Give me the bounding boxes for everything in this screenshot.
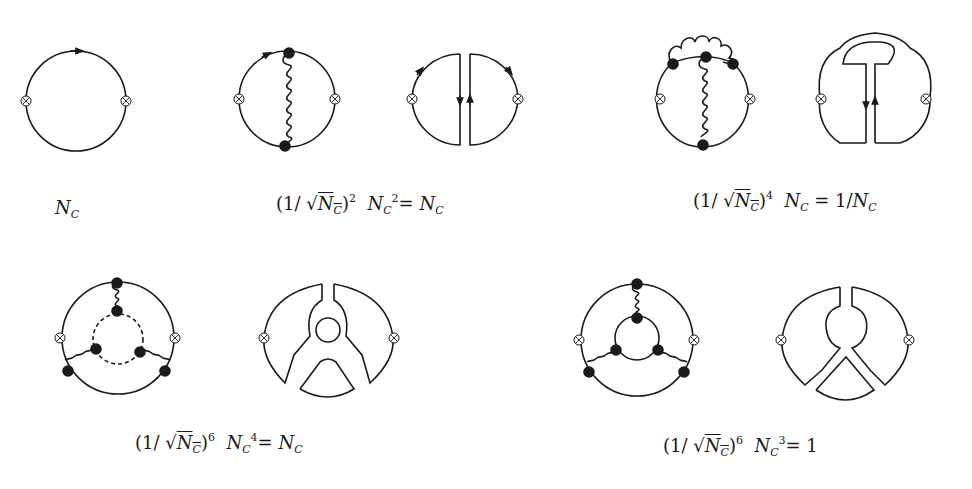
power: 6	[208, 431, 215, 444]
power: 2	[349, 192, 356, 205]
close-paren: )	[342, 193, 349, 214]
close-paren: )	[759, 190, 766, 211]
nc-symbol: N	[754, 435, 770, 456]
nc-subscript: C	[333, 204, 341, 217]
result: N	[419, 193, 435, 214]
nc-subscript: C	[800, 201, 808, 214]
nc-subscript: C	[71, 208, 79, 221]
nc-subscript: C	[750, 201, 758, 214]
prefix: (1/ √	[693, 190, 735, 211]
diagram-three-gluon-gluon-loop	[55, 278, 180, 394]
nc-symbol: N	[318, 193, 334, 214]
close-paren: )	[729, 435, 736, 456]
close-paren: )	[201, 432, 208, 453]
label-diagram-5: (1/ √NC)6 NC3= 1	[663, 434, 818, 459]
nc-subscript: C	[720, 446, 728, 459]
diagram-one-gluon	[234, 48, 340, 151]
power: 6	[736, 434, 743, 447]
power: 4	[766, 189, 773, 202]
diagram-canvas	[0, 0, 972, 489]
nc-symbol: N	[705, 435, 721, 456]
label-diagram-4: (1/ √NC)6 NC4= NC	[135, 431, 303, 456]
diagram-one-gluon-double-line	[407, 54, 523, 145]
equals: =	[258, 432, 279, 453]
nc-power: 3	[779, 434, 786, 447]
diagram-three-gluon-quark-loop-double-line	[776, 287, 914, 400]
nc-symbol: N	[226, 432, 242, 453]
nc-symbol: N	[55, 197, 71, 218]
nc-power: 2	[392, 192, 399, 205]
label-diagram-3: (1/ √NC)4 NC = 1/NC	[693, 189, 877, 214]
result-subscript: C	[868, 201, 876, 214]
diagram-quark-loop	[21, 51, 131, 151]
nc-subscript: C	[192, 443, 200, 456]
prefix: (1/ √	[135, 432, 177, 453]
nc-symbol: N	[784, 190, 800, 211]
diagram-two-gluon-double-line	[816, 33, 931, 143]
result-subscript: C	[435, 204, 443, 217]
prefix: (1/ √	[276, 193, 318, 214]
result: N	[278, 432, 294, 453]
result: N	[853, 190, 869, 211]
diagram-three-gluon-gluon-loop-double-line	[259, 284, 399, 397]
equals: = 1	[786, 435, 818, 456]
label-diagram-1: NC	[55, 197, 79, 221]
nc-symbol: N	[735, 190, 751, 211]
label-diagram-2: (1/ √NC)2 NC2= NC	[276, 192, 444, 217]
result-subscript: C	[294, 443, 302, 456]
diagram-three-gluon-quark-loop	[574, 279, 699, 396]
nc-subscript: C	[242, 443, 250, 456]
nc-subscript: C	[383, 204, 391, 217]
nc-power: 4	[251, 431, 258, 444]
equals: = 1/	[809, 190, 853, 211]
diagram-two-gluon	[655, 36, 755, 150]
nc-symbol: N	[367, 193, 383, 214]
prefix: (1/ √	[663, 435, 705, 456]
equals: =	[399, 193, 420, 214]
nc-symbol: N	[177, 432, 193, 453]
nc-subscript: C	[770, 446, 778, 459]
